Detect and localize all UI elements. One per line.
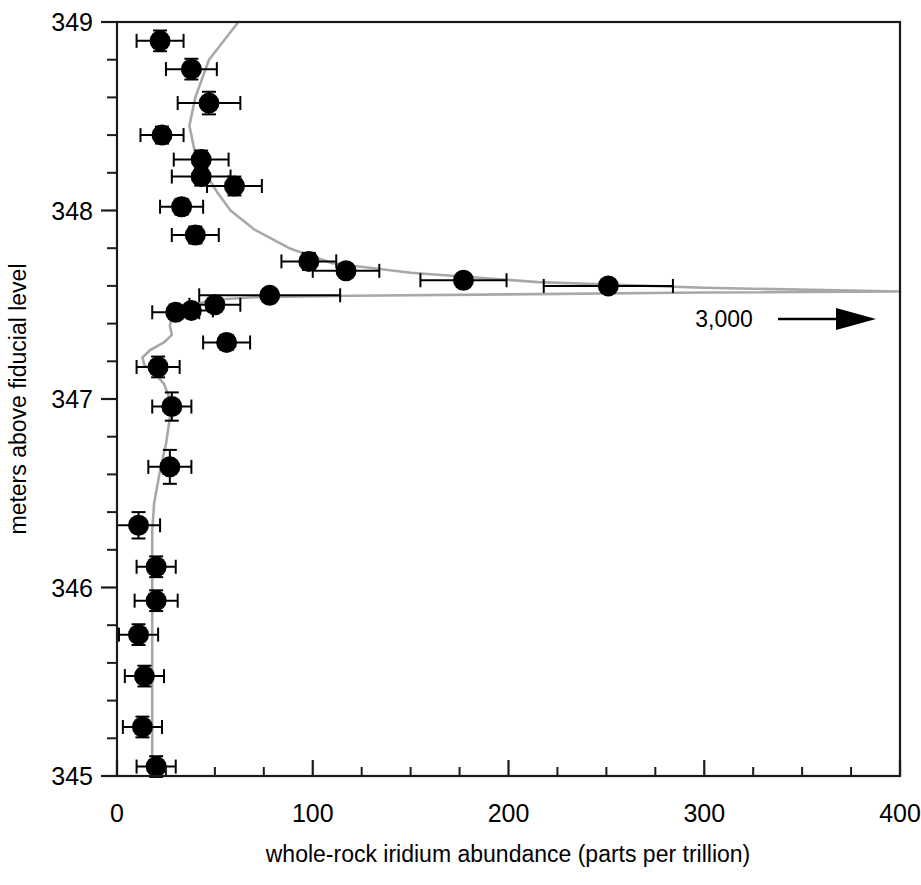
y-tick-label: 347	[51, 385, 93, 413]
x-tick-label: 200	[488, 799, 530, 827]
chart-canvas: 0100200300400 345346347348349 3,000 whol…	[0, 0, 921, 885]
data-point	[191, 166, 212, 187]
data-point	[161, 396, 182, 417]
data-point	[171, 196, 192, 217]
data-point	[148, 356, 169, 377]
x-tick-label: 100	[292, 799, 334, 827]
x-axis-title: whole-rock iridium abundance (parts per …	[265, 841, 750, 867]
data-point	[181, 59, 202, 80]
data-point	[152, 125, 173, 146]
iridium-abundance-figure: 0100200300400 345346347348349 3,000 whol…	[0, 0, 921, 885]
y-tick-label: 349	[51, 8, 93, 36]
data-point	[224, 175, 245, 196]
x-tick-label: 300	[683, 799, 725, 827]
y-tick-label: 348	[51, 197, 93, 225]
data-point	[165, 302, 186, 323]
data-point	[259, 285, 280, 306]
data-point	[134, 666, 155, 687]
data-point	[128, 515, 149, 536]
data-point	[159, 456, 180, 477]
y-tick-label: 345	[51, 762, 93, 790]
data-point	[128, 624, 149, 645]
data-point	[132, 716, 153, 737]
data-point	[336, 260, 357, 281]
data-point	[298, 251, 319, 272]
offscale-value-label: 3,000	[695, 306, 753, 332]
data-point	[146, 556, 167, 577]
data-point	[204, 294, 225, 315]
y-tick-label: 346	[51, 574, 93, 602]
data-point	[185, 225, 206, 246]
data-point	[146, 756, 167, 777]
data-point	[146, 590, 167, 611]
data-point	[150, 30, 171, 51]
x-tick-label: 400	[879, 799, 921, 827]
x-tick-label: 0	[110, 799, 124, 827]
data-point	[598, 275, 619, 296]
y-axis-title: meters above fiducial level	[5, 263, 31, 534]
data-point	[199, 93, 220, 114]
data-point	[216, 332, 237, 353]
data-point	[453, 270, 474, 291]
chart-background	[0, 0, 921, 885]
